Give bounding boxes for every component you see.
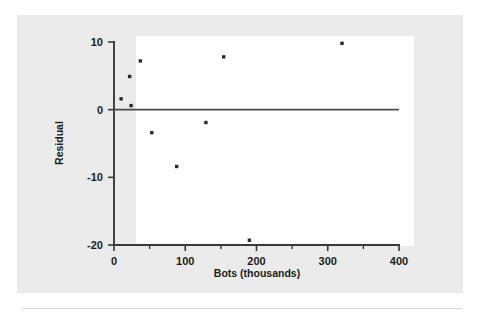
data-point-9 bbox=[340, 42, 343, 45]
residual-scatter-chart: 100-10-20 0100200300400 Bots (thousands)… bbox=[17, 15, 463, 293]
x-tick-label-2: 200 bbox=[247, 255, 265, 267]
y-tick-labels-group: 100-10-20 bbox=[87, 36, 103, 251]
footer-divider bbox=[22, 308, 462, 309]
data-point-8 bbox=[248, 239, 251, 242]
data-point-7 bbox=[222, 55, 225, 58]
y-tick-label-1: 0 bbox=[97, 104, 103, 116]
y-tick-label-3: -20 bbox=[87, 239, 103, 251]
x-tick-label-3: 300 bbox=[319, 255, 337, 267]
x-tick-labels-group: 0100200300400 bbox=[111, 255, 408, 267]
x-tick-label-1: 100 bbox=[176, 255, 194, 267]
data-point-1 bbox=[128, 75, 131, 78]
figure-panel: 100-10-20 0100200300400 Bots (thousands)… bbox=[17, 15, 463, 293]
data-point-6 bbox=[204, 121, 207, 124]
data-point-3 bbox=[139, 59, 142, 62]
axes-group bbox=[114, 42, 399, 245]
data-point-4 bbox=[150, 131, 153, 134]
y-axis-title: Residual bbox=[53, 121, 65, 165]
x-tick-label-0: 0 bbox=[111, 255, 117, 267]
x-tick-label-4: 400 bbox=[390, 255, 408, 267]
y-tick-label-0: 10 bbox=[91, 36, 103, 48]
data-point-0 bbox=[119, 97, 122, 100]
data-point-5 bbox=[175, 165, 178, 168]
data-point-2 bbox=[129, 104, 132, 107]
x-axis-title: Bots (thousands) bbox=[214, 267, 300, 279]
y-tick-label-2: -10 bbox=[87, 171, 103, 183]
data-points-group bbox=[119, 42, 343, 242]
